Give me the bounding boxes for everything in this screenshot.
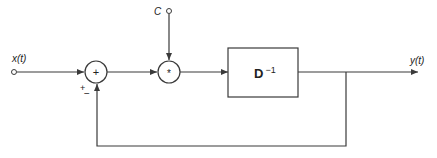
minus-sign: − <box>84 88 90 99</box>
block-superscript: −1 <box>265 65 275 75</box>
constant-terminal <box>167 9 172 14</box>
sum-symbol: + <box>93 66 99 78</box>
input-label: x(t) <box>11 53 26 64</box>
sum-junction: + <box>85 61 107 83</box>
inverse-d-block: D−1 <box>228 48 298 97</box>
multiply-symbol: * <box>167 68 171 79</box>
input-terminal <box>12 70 17 75</box>
block-label: D <box>254 66 263 81</box>
output-label: y(t) <box>409 55 424 66</box>
block-diagram: x(t) + + − C * D−1 y(t) <box>0 0 437 158</box>
multiply-junction: * <box>158 61 180 83</box>
constant-label: C <box>154 6 162 17</box>
feedback-path <box>97 72 346 146</box>
